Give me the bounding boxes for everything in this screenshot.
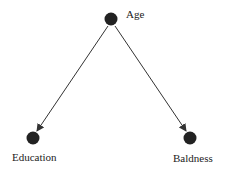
node-education[interactable]: [27, 132, 40, 145]
node-label-age: Age: [126, 8, 144, 20]
node-label-education: Education: [12, 151, 57, 163]
node-label-baldness: Baldness: [173, 152, 213, 164]
node-baldness[interactable]: [184, 132, 197, 145]
edge-age-baldness: [115, 26, 186, 131]
edge-age-education: [37, 26, 108, 131]
dag-canvas: [0, 0, 230, 172]
node-age[interactable]: [105, 13, 118, 26]
